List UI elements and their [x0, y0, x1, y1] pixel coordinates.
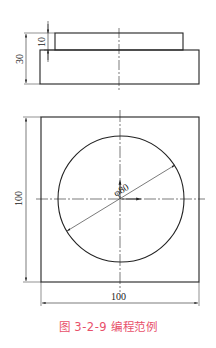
dim-diameter-line — [67, 165, 175, 231]
dim-30-label: 30 — [14, 54, 25, 64]
technical-drawing: 30 10 100 100 φ80 — [0, 0, 216, 348]
dim-10-label: 10 — [36, 37, 47, 47]
dim-diameter-label: φ80 — [111, 181, 130, 199]
dim-height-100-label: 100 — [13, 191, 24, 206]
top-view — [23, 110, 205, 306]
side-view — [24, 21, 199, 90]
base-block-outline — [40, 50, 199, 84]
figure-caption: 图 3-2-9 编程范例 — [0, 318, 216, 334]
dim-width-100-label: 100 — [111, 291, 126, 302]
